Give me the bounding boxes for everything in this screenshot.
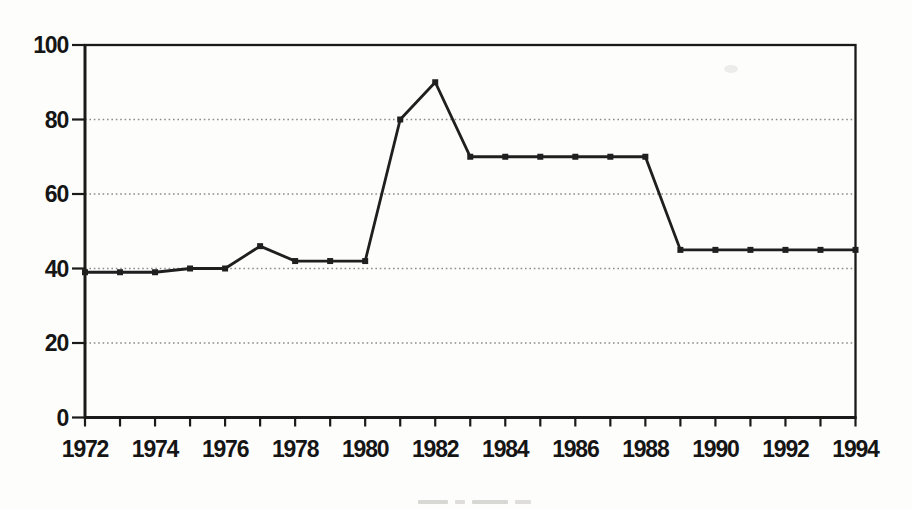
caption-smudge (515, 500, 531, 504)
data-point-1979 (327, 258, 333, 264)
data-point-1975 (187, 266, 193, 272)
y-axis-label-20: 20 (45, 330, 69, 356)
y-axis-label-60: 60 (45, 181, 69, 207)
x-axis-label-1992: 1992 (762, 436, 809, 462)
caption-smudge (418, 500, 448, 504)
x-axis-label-1972: 1972 (62, 436, 109, 462)
data-point-1978 (292, 258, 298, 264)
scanned-chart-page: 0204060801001972197419761978198019821984… (0, 0, 912, 509)
data-point-1982 (432, 79, 438, 85)
y-axis-label-40: 40 (45, 256, 69, 282)
x-axis-label-1994: 1994 (832, 436, 880, 462)
data-point-1977 (257, 243, 263, 249)
data-point-1993 (817, 247, 823, 253)
data-point-1980 (362, 258, 368, 264)
y-axis-label-100: 100 (33, 32, 68, 58)
data-point-1994 (853, 247, 859, 253)
x-axis-label-1982: 1982 (412, 436, 459, 462)
x-axis-label-1976: 1976 (202, 436, 249, 462)
x-axis-label-1990: 1990 (692, 436, 739, 462)
data-point-1986 (572, 154, 578, 160)
x-axis-label-1988: 1988 (622, 436, 670, 462)
data-point-1981 (397, 117, 403, 123)
data-point-1974 (152, 269, 158, 275)
data-point-1983 (467, 154, 473, 160)
caption-smudge (455, 500, 465, 504)
data-point-1991 (747, 247, 753, 253)
data-point-1987 (607, 154, 613, 160)
line-chart: 0204060801001972197419761978198019821984… (0, 0, 912, 509)
y-axis-label-0: 0 (56, 405, 68, 431)
data-point-1984 (502, 154, 508, 160)
scan-smudge-artifact (724, 65, 738, 73)
plot-border (85, 45, 856, 418)
data-point-1976 (222, 266, 228, 272)
x-axis-label-1984: 1984 (482, 436, 530, 462)
data-point-1972 (82, 269, 88, 275)
data-point-1988 (642, 154, 648, 160)
data-point-1990 (712, 247, 718, 253)
data-series-line (85, 82, 856, 272)
x-axis-label-1986: 1986 (552, 436, 599, 462)
x-axis-label-1980: 1980 (342, 436, 389, 462)
cropped-caption-artifact (418, 500, 548, 508)
data-point-1985 (537, 154, 543, 160)
caption-smudge (472, 500, 508, 504)
x-axis-label-1978: 1978 (272, 436, 320, 462)
y-axis-label-80: 80 (45, 107, 69, 133)
data-point-1973 (117, 269, 123, 275)
data-point-1992 (782, 247, 788, 253)
data-point-1989 (677, 247, 683, 253)
line-chart-figure: 0204060801001972197419761978198019821984… (0, 0, 912, 509)
x-axis-label-1974: 1974 (132, 436, 180, 462)
